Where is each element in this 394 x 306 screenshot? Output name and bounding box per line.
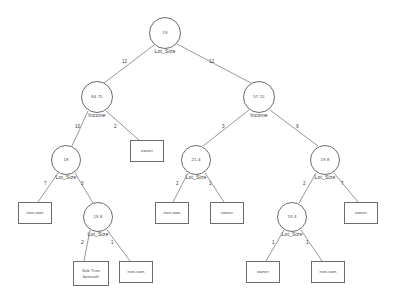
split-attribute-label: Lot_Size (148, 48, 182, 54)
leaf-label: owner (221, 210, 233, 215)
tree-node-n7[interactable]: 19.4 (277, 202, 307, 232)
split-attribute-label: Lot_Size (49, 174, 83, 180)
split-attribute-label: Lot_Size (275, 231, 309, 237)
split-attribute-label: Income (242, 112, 276, 118)
tree-leaf-L6[interactable]: owner (210, 202, 244, 224)
node-value: 57.15 (253, 95, 264, 99)
edge-label: 2 (303, 181, 306, 186)
edge-label: 2 (114, 124, 117, 129)
node-value: 19.8 (321, 158, 330, 162)
leaf-label: non-own (163, 210, 180, 215)
tree-leaf-L7[interactable]: owner (344, 202, 378, 224)
node-value: 21.4 (192, 158, 201, 162)
leaf-label: owner (141, 148, 153, 153)
node-value: 19.4 (288, 215, 297, 219)
node-value: 18 (64, 158, 69, 162)
tree-node-n0[interactable]: 19 (149, 17, 181, 49)
tree-node-n2[interactable]: 57.15 (243, 81, 275, 113)
edge-label: 9 (296, 124, 299, 129)
leaf-label: Sub Tree beneath (82, 268, 100, 279)
tree-leaf-L3[interactable]: Sub Tree beneath (73, 261, 109, 286)
edge-label: 12 (209, 59, 214, 64)
decision-tree-diagram: 121210273213921271119Lot_Size84.75Income… (0, 0, 394, 306)
edge-label: 1 (306, 240, 309, 245)
edge-label: 10 (75, 124, 80, 129)
edge-label: 7 (341, 181, 344, 186)
tree-node-n1[interactable]: 84.75 (81, 81, 113, 113)
tree-edge (270, 110, 318, 146)
leaf-label: non-own (127, 269, 144, 274)
edge-label: 3 (81, 181, 84, 186)
edge-label: 2 (81, 240, 84, 245)
edge-label: 1 (272, 240, 275, 245)
tree-leaf-L2[interactable]: non-own (18, 202, 52, 224)
split-attribute-label: Lot_Size (308, 174, 342, 180)
node-value: 84.75 (91, 95, 102, 99)
split-attribute-label: Lot_Size (179, 174, 213, 180)
edge-label: 7 (44, 181, 47, 186)
node-value: 19 (163, 31, 168, 35)
tree-node-n4[interactable]: 19.8 (83, 202, 113, 232)
tree-leaf-L1[interactable]: owner (130, 140, 164, 162)
tree-node-n6[interactable]: 19.8 (310, 145, 340, 175)
tree-leaf-L5[interactable]: non-own (155, 202, 189, 224)
leaf-label: owner (257, 269, 269, 274)
tree-node-n3[interactable]: 18 (51, 145, 81, 175)
node-value: 19.8 (94, 215, 103, 219)
tree-edge (104, 45, 154, 83)
leaf-label: non-own (26, 210, 43, 215)
edge-label: 1 (111, 240, 114, 245)
leaf-label: owner (355, 210, 367, 215)
split-attribute-label: Income (80, 112, 114, 118)
tree-leaf-L8[interactable]: owner (246, 261, 280, 283)
edge-label: 2 (176, 181, 179, 186)
tree-node-n5[interactable]: 21.4 (181, 145, 211, 175)
tree-leaf-L4[interactable]: non-own (119, 261, 153, 283)
edge-label: 12 (122, 59, 127, 64)
tree-leaf-L9[interactable]: non-own (311, 261, 345, 283)
edge-label: 1 (209, 181, 212, 186)
edge-label: 3 (222, 124, 225, 129)
leaf-label: non-own (319, 269, 336, 274)
split-attribute-label: Lot_Size (81, 231, 115, 237)
